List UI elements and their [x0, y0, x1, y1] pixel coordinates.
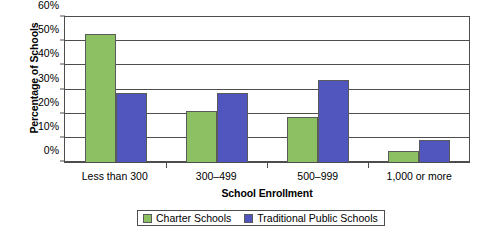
bar: [318, 80, 349, 162]
x-axis-tick-label: 1,000 or more: [369, 170, 471, 182]
legend-entry: Traditional Public Schools: [244, 212, 377, 224]
legend-entry: Charter Schools: [143, 212, 231, 224]
x-axis-tick-label: 300–499: [166, 170, 268, 182]
bar-groups: [65, 17, 469, 162]
bar: [85, 34, 116, 162]
bar-chart: Percentage of Schools 0%10%20%30%40%50%6…: [0, 0, 493, 241]
x-axis-tick-mark: [368, 162, 369, 168]
bar: [388, 151, 419, 162]
y-axis-tick-label: 60%: [15, 0, 59, 11]
x-axis-title: School Enrollment: [64, 187, 470, 199]
plot-inner: 0%10%20%30%40%50%60%: [65, 17, 469, 162]
legend-color-swatch: [143, 214, 152, 223]
y-axis-tick-label: 50%: [15, 23, 59, 35]
bar: [419, 140, 450, 162]
y-axis-tick-label: 0%: [15, 144, 59, 156]
bar: [287, 117, 318, 162]
legend-label: Charter Schools: [156, 212, 231, 224]
bar-group: [65, 17, 166, 162]
y-axis-tick-label: 10%: [15, 120, 59, 132]
y-axis-tick-label: 40%: [15, 47, 59, 59]
legend-label: Traditional Public Schools: [257, 212, 377, 224]
x-axis-tick-mark: [166, 162, 167, 168]
x-axis-tick-labels: Less than 300300–499500–9991,000 or more: [64, 170, 470, 182]
x-axis-tick-label: 500–999: [267, 170, 369, 182]
bar-group: [166, 17, 267, 162]
y-axis-tick-label: 30%: [15, 72, 59, 84]
bar-group: [368, 17, 469, 162]
bar: [186, 111, 217, 162]
bar: [217, 93, 248, 162]
bar-group: [267, 17, 368, 162]
plot-area: 0%10%20%30%40%50%60%: [64, 16, 470, 163]
chart-legend: Charter SchoolsTraditional Public School…: [137, 210, 385, 226]
legend-color-swatch: [244, 214, 253, 223]
x-axis-tick-mark: [267, 162, 268, 168]
y-axis-tick-label: 20%: [15, 96, 59, 108]
x-axis-tick-label: Less than 300: [64, 170, 166, 182]
bar: [116, 93, 147, 162]
